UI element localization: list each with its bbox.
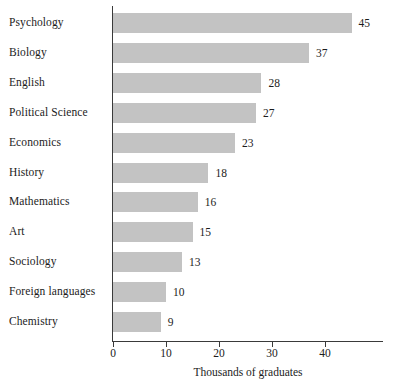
bar bbox=[113, 282, 166, 302]
bar-container: 28 bbox=[113, 68, 301, 98]
category-label-cell: Psychology bbox=[11, 8, 111, 38]
bar-value-label: 9 bbox=[168, 312, 174, 332]
bar-row: History18 bbox=[0, 158, 393, 188]
bar-row: Political Science27 bbox=[0, 98, 393, 128]
bar-row: Sociology13 bbox=[0, 247, 393, 277]
bar-row: English28 bbox=[0, 68, 393, 98]
category-label: Psychology bbox=[9, 8, 111, 38]
bar bbox=[113, 13, 352, 33]
bar-container: 45 bbox=[113, 8, 392, 38]
bar-value-label: 13 bbox=[189, 252, 201, 272]
bar-container: 13 bbox=[113, 247, 222, 277]
category-label-cell: Chemistry bbox=[11, 307, 111, 337]
category-label: Mathematics bbox=[9, 187, 111, 217]
bar-value-label: 27 bbox=[263, 103, 275, 123]
bar-value-label: 37 bbox=[316, 43, 328, 63]
bar bbox=[113, 312, 161, 332]
bar bbox=[113, 192, 198, 212]
category-label-cell: Foreign languages bbox=[11, 277, 111, 307]
bar-value-label: 28 bbox=[268, 73, 280, 93]
bar-container: 37 bbox=[113, 38, 349, 68]
bar-value-label: 16 bbox=[205, 192, 217, 212]
bar-container: 16 bbox=[113, 187, 238, 217]
bar-container: 18 bbox=[113, 158, 248, 188]
category-label: Sociology bbox=[9, 247, 111, 277]
category-label: History bbox=[9, 158, 111, 188]
bar bbox=[113, 163, 208, 183]
bar bbox=[113, 103, 256, 123]
bar-row: Chemistry9 bbox=[0, 307, 393, 337]
x-tick-label: 10 bbox=[146, 347, 186, 359]
bar-row: Art15 bbox=[0, 217, 393, 247]
category-label-cell: Political Science bbox=[11, 98, 111, 128]
category-label-cell: English bbox=[11, 68, 111, 98]
bar-chart: Psychology45Biology37English28Political … bbox=[0, 0, 393, 390]
category-label-cell: Art bbox=[11, 217, 111, 247]
bar-value-label: 23 bbox=[242, 133, 254, 153]
bar-value-label: 18 bbox=[215, 163, 227, 183]
bar-row: Foreign languages10 bbox=[0, 277, 393, 307]
bar bbox=[113, 222, 193, 242]
bar-container: 9 bbox=[113, 307, 201, 337]
bar-value-label: 15 bbox=[200, 222, 212, 242]
bar-container: 27 bbox=[113, 98, 296, 128]
bar-row: Biology37 bbox=[0, 38, 393, 68]
category-label-cell: Economics bbox=[11, 128, 111, 158]
category-label-cell: History bbox=[11, 158, 111, 188]
bar-container: 10 bbox=[113, 277, 206, 307]
x-axis-title: Thousands of graduates bbox=[113, 366, 383, 378]
category-label: Economics bbox=[9, 128, 111, 158]
category-label: Art bbox=[9, 217, 111, 247]
bar-value-label: 45 bbox=[359, 13, 371, 33]
x-tick-label: 20 bbox=[199, 347, 239, 359]
x-tick-label: 0 bbox=[93, 347, 133, 359]
category-label: English bbox=[9, 68, 111, 98]
bar bbox=[113, 73, 261, 93]
bar-container: 23 bbox=[113, 128, 275, 158]
bar bbox=[113, 43, 309, 63]
bar-row: Mathematics16 bbox=[0, 187, 393, 217]
category-label: Chemistry bbox=[9, 307, 111, 337]
category-label: Foreign languages bbox=[9, 277, 111, 307]
bar-row: Psychology45 bbox=[0, 8, 393, 38]
bar bbox=[113, 133, 235, 153]
bar-row: Economics23 bbox=[0, 128, 393, 158]
bar-container: 15 bbox=[113, 217, 233, 247]
category-label-cell: Sociology bbox=[11, 247, 111, 277]
category-label: Biology bbox=[9, 38, 111, 68]
category-label-cell: Mathematics bbox=[11, 187, 111, 217]
bar bbox=[113, 252, 182, 272]
category-label-cell: Biology bbox=[11, 38, 111, 68]
x-axis-line bbox=[112, 341, 383, 342]
x-tick-label: 30 bbox=[252, 347, 292, 359]
x-tick-label: 40 bbox=[305, 347, 345, 359]
category-label: Political Science bbox=[9, 98, 111, 128]
bar-value-label: 10 bbox=[173, 282, 185, 302]
